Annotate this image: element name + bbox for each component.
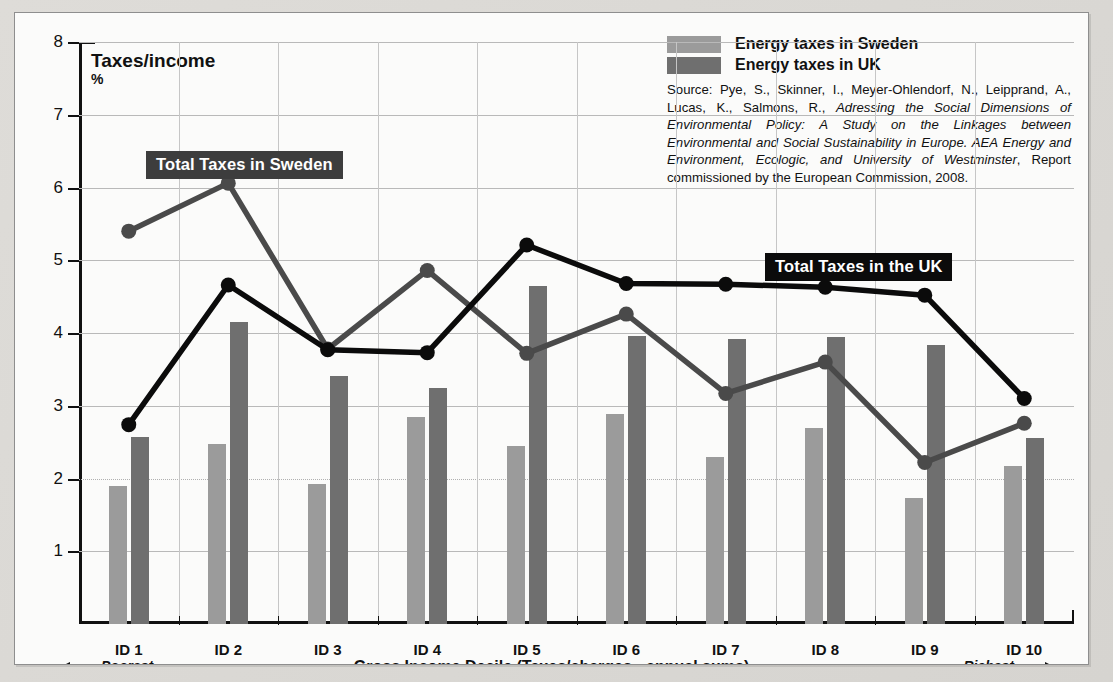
line-series-layer	[79, 42, 1074, 624]
callout-total-taxes-uk: Total Taxes in the UK	[765, 253, 952, 281]
chart-page: Taxes/income % Energy taxes in Sweden En…	[0, 0, 1113, 682]
point-uk-4	[420, 345, 435, 360]
x-tick-label-7: ID 7	[712, 641, 740, 658]
point-uk-10	[1017, 391, 1032, 406]
y-tick-7	[68, 115, 79, 117]
x-tick-4	[477, 616, 478, 625]
y-tick-label-5: 5	[35, 251, 63, 268]
x-tick-8	[875, 616, 876, 625]
arrow-right-icon	[1020, 661, 1054, 666]
point-uk-3	[320, 342, 335, 357]
x-tick-label-4: ID 4	[413, 641, 441, 658]
callout-total-taxes-sweden: Total Taxes in Sweden	[146, 151, 343, 179]
y-tick-1	[68, 551, 79, 553]
point-uk-6	[619, 276, 634, 291]
point-sweden-1	[121, 224, 136, 239]
y-tick-label-3: 3	[35, 397, 63, 414]
x-tick-5	[577, 616, 578, 625]
point-uk-8	[818, 280, 833, 295]
x-tick-label-9: ID 9	[911, 641, 939, 658]
x-tick-9	[975, 616, 976, 625]
x-tick-7	[776, 616, 777, 625]
x-tick-1	[179, 616, 180, 625]
x-tick-6	[676, 616, 677, 625]
y-tick-2	[68, 479, 79, 481]
y-tick-label-2: 2	[35, 470, 63, 487]
point-sweden-5	[519, 346, 534, 361]
x-tick-3	[378, 616, 379, 625]
y-tick-label-1: 1	[35, 542, 63, 559]
point-uk-2	[221, 277, 236, 292]
y-tick-8	[68, 42, 79, 44]
x-tick-label-1: ID 1	[115, 641, 143, 658]
point-uk-5	[519, 237, 534, 252]
richest-label: Richest	[963, 658, 1014, 665]
x-axis-title: Gross Income Decile (Taxes/charges - ann…	[15, 658, 1088, 665]
y-tick-6	[68, 188, 79, 190]
richest-annotation: Richest	[963, 658, 1054, 665]
point-sweden-4	[420, 263, 435, 278]
x-tick-label-2: ID 2	[214, 641, 242, 658]
y-tick-4	[68, 333, 79, 335]
point-sweden-6	[619, 307, 634, 322]
x-tick-label-5: ID 5	[513, 641, 541, 658]
y-tick-label-7: 7	[35, 106, 63, 123]
x-tick-2	[278, 616, 279, 625]
point-uk-7	[718, 277, 733, 292]
y-tick-label-4: 4	[35, 324, 63, 341]
x-tick-label-6: ID 6	[612, 641, 640, 658]
y-tick-5	[68, 260, 79, 262]
y-tick-3	[68, 406, 79, 408]
y-tick-label-6: 6	[35, 179, 63, 196]
x-tick-label-8: ID 8	[811, 641, 839, 658]
x-tick-label-3: ID 3	[314, 641, 342, 658]
point-sweden-10	[1017, 416, 1032, 431]
chart-frame: Taxes/income % Energy taxes in Sweden En…	[14, 12, 1089, 665]
x-tick-label-10: ID 10	[1006, 641, 1042, 658]
point-uk-9	[917, 288, 932, 303]
plot-area: 12345678 ID 1ID 2ID 3ID 4ID 5ID 6ID 7ID …	[79, 42, 1074, 624]
line-total-taxes-sweden	[129, 183, 1025, 462]
point-sweden-8	[818, 355, 833, 370]
point-uk-1	[121, 417, 136, 432]
point-sweden-9	[917, 455, 932, 470]
point-sweden-7	[718, 386, 733, 401]
y-tick-label-8: 8	[35, 33, 63, 50]
